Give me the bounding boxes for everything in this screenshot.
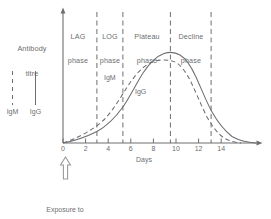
antibody-response-figure: LAG phase LOG phase Plateau phase Declin… (0, 0, 271, 219)
legend-title-line2: titre (2, 70, 62, 78)
phase-label-plateau: Plateau phase (126, 17, 168, 82)
phase-label-plateau-line2: phase (126, 57, 168, 65)
xtick-label-14: 14 (214, 145, 228, 153)
legend-label-igg: IgG (25, 108, 47, 116)
phase-label-decline-line1: Decline (170, 33, 212, 41)
phase-label-decline-line2: phase (170, 57, 212, 65)
phase-label-log: LOG phase (90, 17, 130, 82)
phase-label-decline: Decline phase (170, 17, 212, 82)
x-axis-ticks (63, 139, 221, 144)
exposure-annotation: Exposure to infecting agent ('antigen') (10, 186, 120, 219)
xtick-label-4: 4 (101, 145, 115, 153)
exposure-annotation-line1: Exposure to (10, 205, 120, 214)
phase-label-log-line1: LOG (90, 33, 130, 41)
up-arrow-icon (61, 157, 71, 179)
xtick-label-12: 12 (192, 145, 206, 153)
x-axis-title: Days (126, 156, 162, 164)
legend-title: Antibody titre (2, 29, 62, 94)
curve-label-igg: IgG (135, 88, 146, 96)
xtick-label-0: 0 (56, 145, 70, 153)
xtick-label-6: 6 (124, 145, 138, 153)
curve-label-igm: IgM (104, 74, 116, 82)
xtick-label-10: 10 (169, 145, 183, 153)
xtick-label-2: 2 (79, 145, 93, 153)
legend-title-line1: Antibody (2, 45, 62, 53)
phase-label-plateau-line1: Plateau (126, 33, 168, 41)
phase-label-log-line2: phase (90, 57, 130, 65)
legend-label-igm: IgM (2, 108, 24, 116)
xtick-label-8: 8 (146, 145, 160, 153)
